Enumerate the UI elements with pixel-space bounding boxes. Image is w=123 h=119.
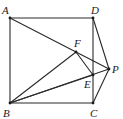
geometry-diagram: A B C D E F P xyxy=(0,0,123,119)
point-F xyxy=(75,51,78,54)
segment-DP xyxy=(93,18,109,69)
labels-group: A B C D E F P xyxy=(1,4,119,119)
label-D: D xyxy=(90,4,99,16)
point-D xyxy=(92,17,95,20)
point-B xyxy=(9,102,12,105)
label-A: A xyxy=(1,4,9,16)
point-A xyxy=(9,17,12,20)
segment-BP xyxy=(10,69,109,103)
segment-BF xyxy=(10,52,76,103)
label-B: B xyxy=(3,107,10,119)
segment-FE xyxy=(76,52,93,75)
label-P: P xyxy=(111,63,119,75)
segment-AP xyxy=(10,18,109,69)
point-C xyxy=(92,102,95,105)
segments-group xyxy=(10,18,109,103)
point-E xyxy=(92,74,95,77)
label-C: C xyxy=(90,107,98,119)
points-group xyxy=(9,17,111,105)
label-F: F xyxy=(73,37,81,49)
label-E: E xyxy=(83,78,91,90)
point-P xyxy=(108,68,111,71)
